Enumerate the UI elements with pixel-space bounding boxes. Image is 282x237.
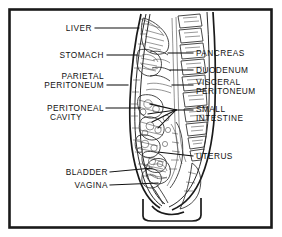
label-bladder: BLADDER [66, 167, 108, 177]
label-parietal-peritoneum: PERITONEUM [44, 80, 104, 90]
label-stomach: STOMACH [60, 50, 105, 60]
anatomy-figure: LIVER STOMACH PARIETAL PERITONEUM PERITO… [0, 0, 282, 237]
label-liver: LIVER [66, 23, 92, 33]
label-visceral-peritoneum: PERITONEUM [196, 86, 256, 96]
anatomy-svg: LIVER STOMACH PARIETAL PERITONEUM PERITO… [0, 0, 282, 237]
label-peritoneal-cavity: CAVITY [50, 112, 82, 122]
label-duodenum: DUODENUM [196, 65, 248, 75]
label-vagina: VAGINA [75, 180, 108, 190]
label-pancreas: PANCREAS [196, 48, 245, 58]
label-uterus: UTERUS [196, 151, 233, 161]
label-small-intestine: INTESTINE [196, 113, 243, 123]
